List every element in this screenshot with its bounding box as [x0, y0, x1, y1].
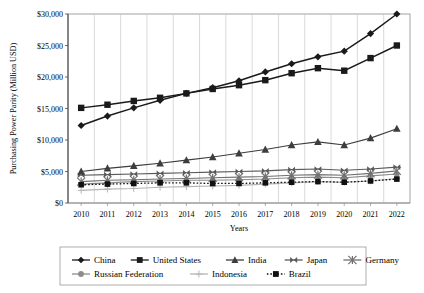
legend-label: India	[248, 255, 267, 265]
x-tick-label: 2013	[152, 210, 168, 219]
legend-label: Brazil	[289, 269, 311, 279]
marker-square	[78, 105, 84, 111]
marker-square	[341, 179, 347, 185]
y-tick-label: $25,000	[37, 42, 63, 51]
legend-label: Russian Federation	[94, 269, 164, 279]
marker-square	[131, 98, 137, 104]
y-axis-title: Purchasing Power Parity (Million USD)	[9, 43, 18, 175]
x-tick-label: 2011	[100, 210, 116, 219]
x-tick-label: 2010	[73, 210, 89, 219]
marker-square	[394, 176, 400, 182]
marker-square	[394, 42, 400, 48]
marker-square	[131, 181, 137, 187]
marker-square	[288, 70, 294, 76]
y-tick-label: $0	[55, 199, 63, 208]
x-tick-label: 2016	[231, 210, 247, 219]
x-axis-title: Years	[230, 224, 248, 233]
marker-square	[315, 179, 321, 185]
marker-square	[157, 180, 163, 186]
x-tick-label: 2021	[363, 210, 379, 219]
legend-label: Indonesia	[212, 269, 247, 279]
marker-square	[367, 55, 373, 61]
marker-square	[210, 181, 216, 187]
marker-square	[368, 178, 374, 184]
x-tick-label: 2019	[310, 210, 326, 219]
marker-square	[184, 180, 190, 186]
marker-square	[263, 180, 269, 186]
marker-square	[273, 271, 279, 277]
y-tick-label: $30,000	[37, 10, 63, 19]
x-tick-label: 2014	[178, 210, 194, 219]
marker-square	[236, 181, 242, 187]
marker-circle	[78, 271, 84, 277]
x-tick-label: 2018	[284, 210, 300, 219]
legend-label: China	[94, 255, 116, 265]
chart-container: $0$5,000$10,000$15,000$20,000$25,000$30,…	[0, 0, 424, 293]
marker-square	[289, 179, 295, 185]
marker-square	[341, 68, 347, 74]
x-tick-label: 2012	[126, 210, 142, 219]
y-tick-label: $20,000	[37, 73, 63, 82]
x-tick-label: 2022	[389, 210, 405, 219]
legend-label: Germany	[365, 255, 399, 265]
y-tick-label: $15,000	[37, 105, 63, 114]
legend-label: Japan	[307, 255, 328, 265]
marker-square	[78, 182, 84, 188]
marker-square	[315, 65, 321, 71]
x-tick-label: 2017	[257, 210, 273, 219]
marker-square	[137, 257, 143, 263]
marker-square	[105, 181, 111, 187]
ppp-line-chart: $0$5,000$10,000$15,000$20,000$25,000$30,…	[0, 0, 424, 293]
y-tick-label: $10,000	[37, 136, 63, 145]
legend-label: United States	[153, 255, 202, 265]
marker-square	[104, 102, 110, 108]
y-tick-label: $5,000	[41, 168, 63, 177]
x-tick-label: 2015	[205, 210, 221, 219]
marker-square	[262, 77, 268, 83]
x-tick-label: 2020	[336, 210, 352, 219]
